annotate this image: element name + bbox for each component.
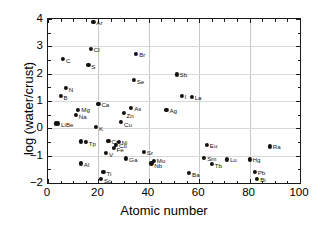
- data-point: [205, 143, 209, 147]
- data-point: [91, 20, 95, 24]
- data-point-label: Tp: [89, 140, 96, 147]
- axis-tick: [149, 19, 150, 23]
- gridline-vertical: [98, 19, 99, 183]
- data-point: [94, 125, 98, 129]
- gridline-horizontal: [48, 156, 300, 157]
- data-point: [174, 72, 178, 76]
- data-point-label: Cl: [94, 46, 100, 53]
- axis-tick: [73, 181, 74, 184]
- data-point: [89, 47, 93, 51]
- axis-tick: [275, 19, 276, 22]
- axis-tick: [48, 156, 52, 157]
- axis-tick: [237, 19, 238, 22]
- axis-tick: [262, 181, 263, 184]
- data-point: [255, 177, 259, 181]
- data-point-label: As: [134, 105, 141, 112]
- axis-tick: [48, 183, 52, 184]
- x-tick-label: 40: [141, 186, 154, 198]
- data-point: [99, 177, 103, 181]
- data-point-label: K: [99, 124, 103, 131]
- data-point: [86, 63, 90, 67]
- data-point-label: Sb: [180, 71, 188, 78]
- data-point: [253, 169, 257, 173]
- x-tick-label: 80: [242, 186, 255, 198]
- data-point: [111, 146, 115, 150]
- axis-tick: [48, 46, 52, 47]
- axis-tick: [212, 181, 213, 184]
- data-point-label: Eu: [210, 142, 218, 149]
- axis-tick: [48, 169, 51, 170]
- axis-tick: [224, 19, 225, 22]
- data-point-label: Ca: [101, 100, 109, 107]
- axis-tick: [136, 181, 137, 184]
- gridline-vertical: [250, 19, 251, 183]
- data-point: [248, 157, 252, 161]
- data-point: [187, 171, 191, 175]
- axis-tick: [296, 156, 300, 157]
- axis-tick: [250, 19, 251, 23]
- axis-tick: [48, 101, 52, 102]
- axis-tick: [298, 142, 301, 143]
- data-point-label: Sr: [147, 148, 153, 155]
- axis-tick: [298, 169, 301, 170]
- axis-tick: [136, 19, 137, 22]
- axis-tick: [224, 181, 225, 184]
- data-point-label: La: [195, 93, 202, 100]
- axis-tick: [300, 19, 301, 23]
- data-point: [122, 111, 126, 115]
- x-tick-label: 60: [192, 186, 205, 198]
- axis-tick: [48, 33, 51, 34]
- data-point: [225, 157, 229, 161]
- axis-tick: [48, 19, 52, 20]
- axis-tick: [199, 179, 200, 183]
- data-point: [84, 140, 88, 144]
- axis-tick: [86, 19, 87, 22]
- data-point-label: Pb: [258, 168, 266, 175]
- axis-tick: [61, 181, 62, 184]
- axis-tick: [296, 101, 300, 102]
- data-point-label: Cr: [111, 137, 118, 144]
- axis-tick: [149, 179, 150, 183]
- data-point: [179, 94, 183, 98]
- data-point-label: Ni: [122, 139, 128, 146]
- data-point: [53, 121, 57, 125]
- axis-tick: [287, 19, 288, 22]
- axis-tick: [296, 46, 300, 47]
- data-points-layer: ArClCSBrSeSbNBILaCaMgNaAsAgZnCuLiBeKTpCr…: [48, 19, 300, 183]
- data-point: [79, 139, 83, 143]
- data-point-label: C: [66, 56, 70, 63]
- axis-tick: [73, 19, 74, 22]
- data-point-label: Ar: [96, 18, 102, 25]
- data-point: [164, 108, 168, 112]
- axis-tick: [161, 181, 162, 184]
- axis-tick: [237, 181, 238, 184]
- gridline-horizontal: [48, 101, 300, 102]
- axis-tick: [98, 179, 99, 183]
- data-point: [142, 149, 146, 153]
- data-point: [59, 94, 63, 98]
- data-point: [132, 78, 136, 82]
- data-point-label: N: [69, 85, 73, 92]
- data-point: [79, 161, 83, 165]
- data-point: [96, 102, 100, 106]
- data-point-label: Sm: [207, 154, 216, 161]
- data-point: [129, 106, 133, 110]
- data-point: [119, 119, 123, 123]
- axis-tick: [287, 181, 288, 184]
- data-point-label: V: [109, 150, 113, 157]
- gridline-horizontal: [48, 128, 300, 129]
- axis-tick: [48, 142, 51, 143]
- scatter-chart-figure: ArClCSBrSeSbNBILaCaMgNaAsAgZnCuLiBeKTpCr…: [0, 0, 328, 232]
- axis-tick: [124, 181, 125, 184]
- data-point: [106, 139, 110, 143]
- gridline-horizontal: [48, 46, 300, 47]
- x-axis-title: Atomic number: [0, 203, 328, 218]
- data-point-label: Ti: [106, 170, 111, 177]
- axis-tick: [48, 115, 51, 116]
- axis-tick: [111, 181, 112, 184]
- data-point: [56, 121, 60, 125]
- axis-tick: [48, 60, 51, 61]
- data-point: [101, 170, 105, 174]
- data-point-label: B: [64, 94, 68, 101]
- data-point-label: Ga: [129, 156, 137, 163]
